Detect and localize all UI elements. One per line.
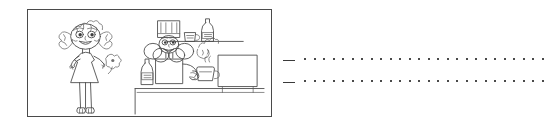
flower	[106, 54, 122, 74]
writing-dot	[513, 58, 515, 60]
writing-dot	[542, 58, 544, 60]
writing-dot	[523, 80, 525, 82]
writing-dot	[418, 80, 420, 82]
writing-dot	[352, 58, 354, 60]
writing-dot	[371, 80, 373, 82]
writing-dot	[380, 80, 382, 82]
illustration-frame	[27, 9, 272, 117]
writing-dot	[437, 58, 439, 60]
writing-dot	[485, 58, 487, 60]
line-dash-icon	[283, 82, 295, 83]
writing-dot	[371, 58, 373, 60]
writing-line-1[interactable]	[283, 53, 538, 67]
writing-dot	[323, 58, 325, 60]
writing-dot	[494, 80, 496, 82]
line-dash-icon	[283, 60, 295, 61]
writing-dot	[418, 58, 420, 60]
writing-dot	[352, 80, 354, 82]
writing-dot	[304, 58, 306, 60]
writing-dot	[399, 58, 401, 60]
chef-figure	[144, 21, 199, 84]
writing-dot	[361, 58, 363, 60]
dotted-writing-lines	[283, 50, 538, 92]
girl-figure	[59, 21, 112, 113]
writing-dot	[409, 80, 411, 82]
writing-dot	[333, 58, 335, 60]
counter-bottle	[141, 59, 153, 85]
writing-line-2[interactable]	[283, 75, 538, 89]
worksheet-page	[0, 0, 546, 124]
writing-dot	[380, 58, 382, 60]
chef-hat	[158, 21, 180, 38]
writing-dot	[466, 80, 468, 82]
writing-dot	[475, 80, 477, 82]
writing-dot	[447, 80, 449, 82]
writing-dot	[399, 80, 401, 82]
writing-dot	[532, 58, 534, 60]
writing-dot	[523, 58, 525, 60]
writing-dot	[342, 58, 344, 60]
writing-dot	[494, 58, 496, 60]
line-dots-1	[300, 53, 538, 67]
childrens-line-drawing	[28, 10, 271, 116]
appliance	[218, 55, 257, 92]
writing-dot	[428, 80, 430, 82]
writing-dot	[342, 80, 344, 82]
line-dots-2	[300, 75, 538, 89]
writing-dot	[314, 58, 316, 60]
writing-dot	[456, 58, 458, 60]
raised-hand	[197, 38, 219, 59]
writing-dot	[428, 58, 430, 60]
writing-dot	[475, 58, 477, 60]
writing-dot	[456, 80, 458, 82]
writing-dot	[504, 58, 506, 60]
cup	[197, 56, 220, 81]
writing-dot	[333, 80, 335, 82]
counter	[135, 89, 264, 115]
writing-dot	[532, 80, 534, 82]
writing-dot	[447, 58, 449, 60]
writing-dot	[323, 80, 325, 82]
writing-dot	[513, 80, 515, 82]
writing-dot	[390, 58, 392, 60]
writing-dot	[361, 80, 363, 82]
writing-dot	[409, 58, 411, 60]
writing-dot	[485, 80, 487, 82]
writing-dot	[390, 80, 392, 82]
writing-dot	[504, 80, 506, 82]
writing-dot	[304, 80, 306, 82]
writing-dot	[466, 58, 468, 60]
shelf-mug	[185, 33, 200, 42]
writing-dot	[542, 80, 544, 82]
writing-dot	[437, 80, 439, 82]
writing-dot	[314, 80, 316, 82]
